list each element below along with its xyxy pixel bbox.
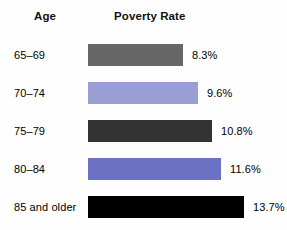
bar-group: 8.3% bbox=[88, 44, 217, 66]
bar bbox=[88, 196, 244, 218]
chart-row: 70–749.6% bbox=[0, 74, 287, 112]
chart-row: 80–8411.6% bbox=[0, 150, 287, 188]
chart-row: 85 and older13.7% bbox=[0, 188, 287, 226]
column-header-age: Age bbox=[34, 10, 56, 22]
category-label: 80–84 bbox=[14, 163, 45, 175]
bar-group: 11.6% bbox=[88, 158, 261, 180]
chart-rows: 65–698.3%70–749.6%75–7910.8%80–8411.6%85… bbox=[0, 36, 287, 226]
category-label: 85 and older bbox=[14, 201, 76, 213]
bar-group: 13.7% bbox=[88, 196, 285, 218]
bar-group: 10.8% bbox=[88, 120, 253, 142]
value-label: 13.7% bbox=[253, 201, 285, 213]
bar bbox=[88, 120, 212, 142]
poverty-rate-bar-chart: Age Poverty Rate 65–698.3%70–749.6%75–79… bbox=[0, 0, 287, 230]
category-label: 70–74 bbox=[14, 87, 45, 99]
bar bbox=[88, 82, 198, 104]
value-label: 10.8% bbox=[221, 125, 253, 137]
category-label: 75–79 bbox=[14, 125, 45, 137]
chart-row: 65–698.3% bbox=[0, 36, 287, 74]
chart-header-row: Age Poverty Rate bbox=[0, 10, 287, 30]
chart-row: 75–7910.8% bbox=[0, 112, 287, 150]
bar bbox=[88, 158, 221, 180]
value-label: 11.6% bbox=[230, 163, 261, 175]
bar-group: 9.6% bbox=[88, 82, 232, 104]
value-label: 8.3% bbox=[192, 49, 217, 61]
column-header-poverty-rate: Poverty Rate bbox=[114, 10, 186, 22]
value-label: 9.6% bbox=[207, 87, 232, 99]
category-label: 65–69 bbox=[14, 49, 45, 61]
bar bbox=[88, 44, 183, 66]
